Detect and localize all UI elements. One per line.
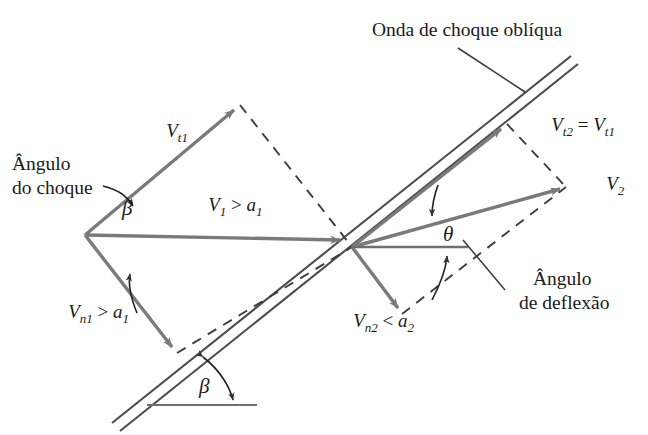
label-v1-a-subscript: 1 [256,204,263,219]
theta-indicator-arrow [432,256,447,300]
label-vn1-gt-a1: Vn1 > a1 [35,301,153,327]
label-vt2-equals: = [573,114,593,135]
vector-vn1 [85,235,172,347]
label-beta-baseline: β [198,374,210,398]
label-vt2-eq-vt1: Vt2 = Vt1 [518,114,639,140]
label-theta-deflection: θ [443,222,453,246]
label-vn2-a-symbol: a [398,310,408,331]
vector-v1 [85,235,340,240]
label-vn2-a-subscript: 2 [408,320,415,335]
label-vn2-relation: < [378,310,398,331]
label-deflection-angle-line2: de deflexão [519,292,609,313]
vector-v2 [352,189,560,247]
downstream-velocity-vectors [352,129,560,308]
label-v1-a-symbol: a [247,194,257,215]
label-vn1-a-subscript: 1 [123,311,130,326]
label-shock-wave: Onda de choque oblíqua [372,19,562,40]
label-beta-shock-angle: β [121,196,133,220]
label-vn1-a-symbol: a [113,301,123,322]
oblique-shock-wave-line [112,56,578,431]
label-vn1-relation: > [93,301,113,322]
label-v1-relation: > [226,194,246,215]
label-vt1-subscript: t1 [178,130,188,145]
label-v2-subscript: 2 [618,183,625,198]
diagram-canvas: Onda de choque oblíqua Ângulo do choque … [0,0,648,435]
vector-vt2 [352,129,501,247]
label-vt1: Vt1 [133,120,212,146]
label-shock-angle-line2: do choque [12,177,93,198]
shock-wave-leader-line [458,48,525,92]
label-vt2-rhs-subscript: t1 [605,124,615,139]
deflection-angle-leader-line [463,240,505,290]
theta-upper-indicator-arrow [432,185,438,216]
label-vn2-lt-a2: Vn2 < a2 [320,310,438,336]
label-v1-gt-a1: V1 > a1 [175,194,286,220]
label-vt2-subscript: t2 [563,124,574,139]
label-vn2-subscript: n2 [365,320,379,335]
label-v2: V2 [573,173,648,199]
vector-vn2 [352,247,398,308]
label-shock-angle-line1: Ângulo [12,153,71,174]
label-deflection-angle-line1: Ângulo [533,268,592,289]
label-vn1-subscript: n1 [80,311,93,326]
oblique-shock-diagram: Onda de choque oblíqua Ângulo do choque … [0,0,648,435]
